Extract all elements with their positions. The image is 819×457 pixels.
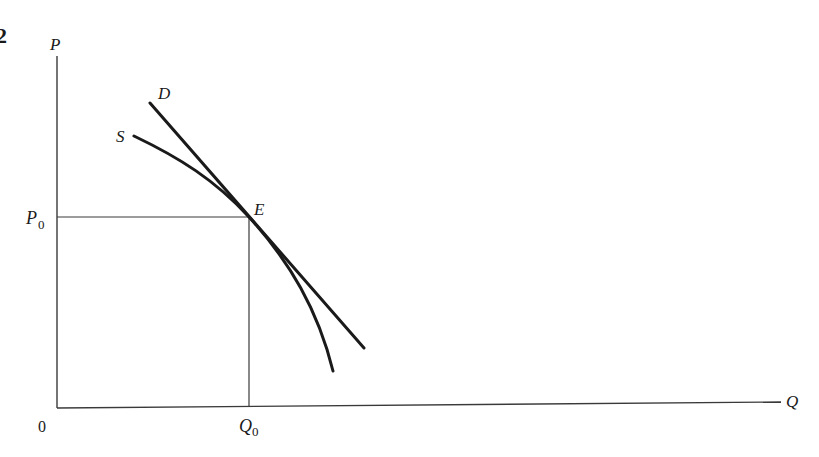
quantity-label-subscript: 0	[252, 424, 259, 439]
price-label-subscript: 0	[38, 217, 45, 232]
equilibrium-label: E	[253, 200, 265, 219]
supply-label: S	[116, 127, 125, 146]
origin-label: 0	[38, 418, 46, 435]
quantity-label-main: Q	[239, 416, 252, 436]
price-equilibrium-label: P 0	[25, 208, 45, 232]
figure-number: 2	[0, 23, 7, 48]
x-axis-label: Q	[786, 392, 798, 411]
supply-demand-diagram: 2 P Q 0 D S E P 0 Q 0	[0, 0, 819, 457]
supply-curve	[134, 136, 333, 371]
price-label-main: P	[25, 208, 37, 228]
x-axis	[57, 402, 781, 408]
y-axis-label: P	[49, 35, 60, 54]
demand-label: D	[157, 84, 171, 103]
quantity-equilibrium-label: Q 0	[239, 416, 259, 439]
